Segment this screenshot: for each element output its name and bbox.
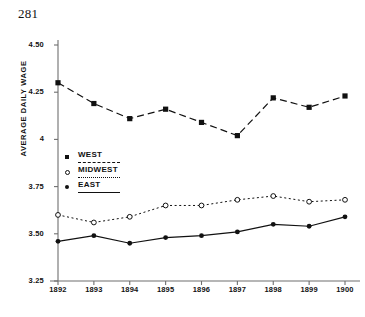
legend-line-sample [78,162,120,163]
data-point [199,233,204,238]
data-point [199,203,204,208]
data-point [343,197,348,202]
chart-legend: WESTMIDWESTEAST [64,150,160,195]
data-point [235,197,240,202]
x-axis-tick-label: 1893 [74,285,114,294]
y-axis-tick-labels: 4.504.2543.753.503.25 [14,0,44,317]
y-axis-tick-label: 4.25 [14,87,44,96]
x-axis-tick-label: 1894 [110,285,150,294]
legend-marker-icon [65,170,70,175]
data-point [127,214,132,219]
legend-label: MIDWEST [78,165,118,174]
x-axis-tick-label: 1892 [38,285,78,294]
plot-canvas [0,0,365,317]
data-point [56,239,61,244]
x-axis-tick-labels: 189218931894189518961897189818991900 [0,285,365,301]
data-point [235,133,240,138]
data-point [199,120,204,125]
legend-line-sample [78,177,120,178]
data-point [271,222,276,227]
x-axis-tick-label: 1896 [182,285,222,294]
legend-item-west: WEST [64,150,160,165]
series-line-midwest [58,196,345,222]
data-point [163,203,168,208]
data-point [271,194,276,199]
y-axis-tick-label: 4.50 [14,40,44,49]
legend-item-east: EAST [64,180,160,195]
y-axis-tick-label: 3.75 [14,182,44,191]
data-point [91,101,96,106]
series-midwest [56,194,348,225]
data-point [91,233,96,238]
x-axis-tick-label: 1899 [289,285,329,294]
data-point [342,93,347,98]
series-line-west [58,83,345,136]
legend-label: EAST [78,180,101,189]
data-point [163,107,168,112]
page-canvas: 281 AVERAGE DAILY WAGE 4.504.2543.753.50… [0,0,365,317]
x-axis-tick-label: 1895 [146,285,186,294]
data-point [235,230,240,235]
series-line-east [58,217,345,243]
data-point [307,105,312,110]
data-point [307,224,312,229]
legend-marker-icon [65,185,69,189]
data-point [271,95,276,100]
legend-item-midwest: MIDWEST [64,165,160,180]
data-point [56,213,61,218]
legend-label: WEST [78,150,102,159]
legend-marker-icon [65,155,69,159]
y-axis-tick-label: 4 [14,134,44,143]
x-axis-tick-label: 1897 [217,285,257,294]
data-point [55,80,60,85]
data-point [127,116,132,121]
x-axis-tick-label: 1900 [325,285,365,294]
series-west [55,80,347,138]
data-point [127,241,132,246]
x-axis-tick-label: 1898 [253,285,293,294]
data-point [307,199,312,204]
y-axis-tick-label: 3.50 [14,229,44,238]
y-axis-tick-label: 3.25 [14,276,44,285]
data-point [343,214,348,219]
data-point [163,235,168,240]
line-chart: AVERAGE DAILY WAGE 4.504.2543.753.503.25… [0,0,365,317]
data-point [91,220,96,225]
legend-line-sample [78,192,120,193]
series-east [56,214,348,245]
